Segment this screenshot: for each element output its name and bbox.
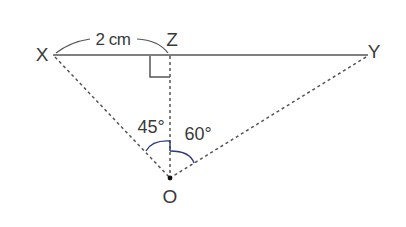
label-x: X xyxy=(36,44,49,65)
angle-arc-45 xyxy=(146,141,170,151)
label-o: O xyxy=(163,186,178,207)
angle-label-60: 60° xyxy=(184,124,211,144)
measure-arc-left xyxy=(56,39,90,53)
label-y: Y xyxy=(368,41,381,62)
measure-arc-right xyxy=(137,39,168,53)
diagram-canvas: 2 cm X Z Y O 45° 60° xyxy=(0,0,406,227)
label-z: Z xyxy=(166,29,178,50)
geometry-diagram: 2 cm X Z Y O 45° 60° xyxy=(0,0,406,227)
angle-arc-60 xyxy=(170,151,194,163)
point-o xyxy=(168,176,173,181)
segment-yo xyxy=(170,57,366,178)
angle-label-45: 45° xyxy=(137,117,164,137)
measure-label: 2 cm xyxy=(96,30,131,49)
right-angle-mark xyxy=(150,56,170,77)
